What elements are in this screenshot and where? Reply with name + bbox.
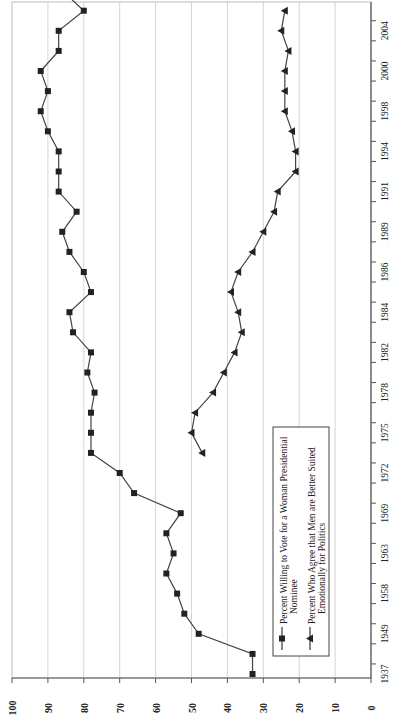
- year-tick-label: 1958: [380, 584, 390, 603]
- square-marker: [181, 611, 187, 617]
- square-marker: [174, 591, 180, 597]
- triangle-marker: [220, 369, 227, 377]
- year-tick-label: 1989: [380, 222, 390, 241]
- square-marker: [196, 631, 202, 637]
- year-tick-label: 1963: [380, 544, 390, 563]
- square-marker: [38, 108, 44, 114]
- value-tick-label: 20: [294, 703, 305, 713]
- rotated-line-chart: 1009080706050403020100 19371949195819631…: [0, 0, 394, 716]
- square-marker: [171, 550, 177, 556]
- square-marker: [56, 48, 62, 54]
- square-marker: [92, 390, 98, 396]
- value-tick-label: 30: [258, 703, 269, 713]
- square-marker: [56, 28, 62, 34]
- triangle-marker: [277, 27, 284, 35]
- value-axis-ticks: 1009080706050403020100: [7, 678, 377, 716]
- triangle-marker: [231, 348, 238, 356]
- value-tick-label: 100: [7, 701, 18, 716]
- square-marker-icon: [279, 636, 285, 642]
- square-marker: [88, 289, 94, 295]
- year-tick-label: 1937: [380, 664, 390, 683]
- category-axis-ticks: 1937194919581963196919721975197819821984…: [371, 21, 390, 684]
- value-tick-label: 90: [43, 703, 54, 713]
- square-marker: [45, 88, 51, 94]
- chart-canvas: 1009080706050403020100 19371949195819631…: [0, 0, 394, 716]
- square-marker: [88, 450, 94, 456]
- year-tick-label: 1984: [380, 302, 390, 321]
- square-marker: [163, 571, 169, 577]
- square-marker: [178, 510, 184, 516]
- year-tick-label: 1975: [380, 423, 390, 442]
- value-tick-label: 40: [222, 703, 233, 713]
- triangle-marker: [270, 208, 277, 216]
- year-tick-label: 1969: [380, 503, 390, 522]
- square-marker: [131, 490, 137, 496]
- square-marker: [81, 269, 87, 275]
- square-marker: [38, 68, 44, 74]
- value-tick-label: 80: [79, 703, 90, 713]
- data-series: [38, 0, 299, 677]
- year-tick-label: 1998: [380, 101, 390, 120]
- legend-label-1b: Nominee: [289, 579, 299, 614]
- square-marker: [74, 209, 80, 215]
- series-line: [192, 11, 296, 453]
- legend-label-2a: Percent Who Agree that Men are Better Su…: [307, 447, 317, 624]
- square-marker: [66, 309, 72, 315]
- year-tick-label: 1949: [380, 624, 390, 643]
- square-marker: [250, 651, 256, 657]
- square-marker: [81, 8, 87, 14]
- value-tick-label: 10: [330, 703, 341, 713]
- value-tick-label: 50: [187, 703, 198, 713]
- square-marker: [250, 671, 256, 677]
- value-tick-label: 60: [151, 703, 162, 713]
- triangle-marker: [198, 449, 205, 457]
- year-tick-label: 2004: [380, 21, 390, 40]
- triangle-marker: [227, 288, 234, 296]
- triangle-marker: [249, 248, 256, 256]
- legend-label-1a: Percent Willing to Vote for a Woman Pres…: [279, 436, 289, 624]
- square-marker: [56, 169, 62, 175]
- year-tick-label: 2000: [380, 61, 390, 80]
- year-tick-label: 1972: [380, 463, 390, 482]
- square-marker: [59, 229, 65, 235]
- square-marker: [66, 249, 72, 255]
- square-marker: [117, 470, 123, 476]
- square-marker: [56, 189, 62, 195]
- square-marker: [45, 128, 51, 134]
- legend-label-2b: Emotionally for Politics: [317, 522, 327, 614]
- legend: Percent Willing to Vote for a Woman Pres…: [273, 427, 329, 656]
- series-line: [41, 0, 253, 674]
- year-tick-label: 1986: [380, 262, 390, 281]
- year-tick-label: 1982: [380, 343, 390, 362]
- value-tick-label: 0: [366, 706, 377, 711]
- square-marker: [56, 148, 62, 154]
- square-marker: [84, 370, 90, 376]
- square-marker: [88, 430, 94, 436]
- year-tick-label: 1994: [380, 142, 390, 161]
- value-tick-label: 70: [115, 703, 126, 713]
- year-tick-label: 1991: [380, 182, 390, 201]
- square-marker: [88, 410, 94, 416]
- square-marker: [88, 349, 94, 355]
- square-marker: [70, 329, 76, 335]
- square-marker: [163, 530, 169, 536]
- year-tick-label: 1978: [380, 383, 390, 402]
